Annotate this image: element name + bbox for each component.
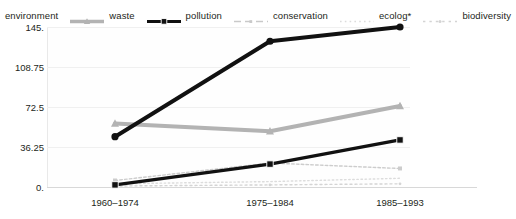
series-line-biodiversity — [115, 184, 400, 186]
series-line-pollution — [115, 140, 400, 185]
data-point-pollution-1 — [267, 161, 273, 167]
data-point-biodiversity-2 — [399, 182, 402, 185]
series-line-environment — [115, 27, 400, 137]
data-point-biodiversity-1 — [269, 184, 272, 187]
data-point-environment-0 — [111, 133, 118, 140]
data-point-pollution-2 — [397, 137, 403, 143]
data-point-pollution-0 — [112, 182, 118, 188]
data-point-conservation-2 — [398, 166, 402, 170]
data-point-environment-2 — [396, 23, 403, 30]
data-point-environment-1 — [266, 38, 273, 45]
